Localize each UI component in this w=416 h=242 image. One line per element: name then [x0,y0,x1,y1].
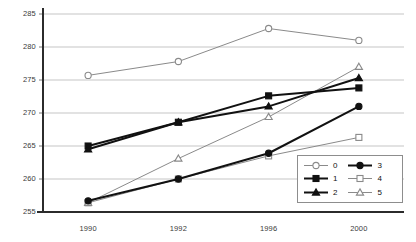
legend-label-1: 1 [333,173,337,184]
x-tick-label-1996: 1996 [244,224,294,233]
marker-filled-circle [356,103,362,109]
marker-filled-circle [175,176,181,182]
legend-column-right: 345 [342,156,386,202]
series-0 [85,25,362,78]
legend-entry-2[interactable]: 2 [298,186,342,199]
legend-label-2: 2 [333,187,337,198]
y-tick-label-270: 270 [4,108,36,117]
marker-filled-square [356,85,362,91]
series-line-2 [88,78,359,149]
x-tick-label-1992: 1992 [153,224,203,233]
y-tick-label-285: 285 [4,9,36,18]
x-tick-label-1990: 1990 [63,224,113,233]
chart-plot-area [0,0,416,242]
legend-label-4: 4 [377,173,381,184]
marker-filled-square [313,176,319,182]
legend-marker-filled-circle [347,160,373,171]
series-line-0 [88,29,359,76]
line-chart: 255260265270275280285 1990199219962000 0… [0,0,416,242]
marker-open-square [356,134,362,140]
legend-label-5: 5 [377,187,381,198]
marker-filled-circle [85,198,91,204]
marker-open-triangle [355,63,362,69]
y-tick-label-260: 260 [4,174,36,183]
x-tick-label-2000: 2000 [334,224,384,233]
marker-open-circle [356,37,362,43]
marker-open-circle [266,25,272,31]
legend-marker-open-circle [303,160,329,171]
legend-marker-filled-triangle [303,187,329,198]
y-tick-label-265: 265 [4,141,36,150]
y-tick-label-255: 255 [4,207,36,216]
marker-open-square [357,176,363,182]
legend-column-left: 012 [298,156,342,202]
marker-filled-square [266,93,272,99]
legend-marker-open-triangle [347,187,373,198]
marker-filled-triangle [355,74,362,80]
legend-entry-0[interactable]: 0 [298,159,342,172]
marker-filled-circle [357,163,363,169]
marker-open-triangle [265,113,272,119]
y-tick-label-280: 280 [4,42,36,51]
marker-open-circle [313,163,319,169]
legend-entry-1[interactable]: 1 [298,172,342,185]
marker-filled-circle [266,150,272,156]
legend-marker-filled-square [303,173,329,184]
marker-open-circle [85,72,91,78]
marker-open-triangle [175,155,182,161]
series-1 [85,85,362,149]
legend-entry-4[interactable]: 4 [342,172,386,185]
legend-label-3: 3 [377,160,381,171]
y-tick-label-275: 275 [4,75,36,84]
legend-marker-open-square [347,173,373,184]
marker-open-circle [175,58,181,64]
chart-legend: 012 345 [297,155,403,203]
legend-label-0: 0 [333,160,337,171]
legend-entry-3[interactable]: 3 [342,159,386,172]
legend-entry-5[interactable]: 5 [342,186,386,199]
